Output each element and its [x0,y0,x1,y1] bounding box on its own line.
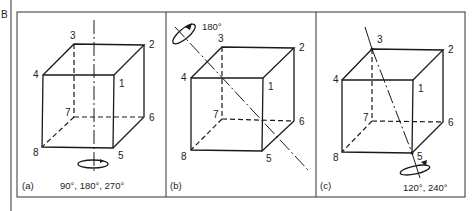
vertex-label-2: 2 [149,39,155,50]
vertex-label-6: 6 [149,112,155,123]
vertex-dot-5 [411,152,414,155]
rotation-angle-label: 120°, 240° [403,182,448,193]
figure-label: B [1,9,8,20]
panel-c: 3 2 4 1 7 6 8 5 (c) 120°, 240° [320,27,454,193]
hidden-edge-7-8 [42,117,74,147]
vertex-label-1: 1 [268,81,274,92]
top-face-edges [191,47,294,78]
rotation-axis-top [365,27,372,49]
front-face [191,78,263,151]
hidden-edge-7-6 [222,119,294,121]
vertex-label-8: 8 [181,151,187,162]
rotation-angle-label: 90°, 180°, 270° [60,180,124,191]
vertex-label-7: 7 [65,107,71,118]
vertex-label-1: 1 [418,83,424,94]
vertex-label-6: 6 [299,116,305,127]
figure-frame [17,12,465,197]
front-face [342,80,413,153]
top-face-edges [342,49,443,80]
vertex-label-1: 1 [119,78,125,89]
vertex-label-2: 2 [299,42,305,53]
vertex-dot-3 [371,48,374,51]
panel-caption: (b) [170,180,182,191]
vertex-label-4: 4 [181,72,187,83]
arrowhead-icon [185,23,192,30]
rotation-arrow-icon [170,21,198,47]
panel-caption: (c) [320,180,331,191]
hidden-edge-7-8 [342,121,372,152]
vertex-label-7: 7 [363,112,369,123]
panel-b: 180° 3 2 4 1 7 6 8 5 (b) [170,21,308,191]
vertex-label-5: 5 [417,151,423,162]
rotation-axis [372,49,412,153]
vertex-label-7: 7 [213,109,219,120]
arrowhead-icon [100,159,104,163]
panel-a: 3 2 4 1 7 6 8 5 (a) 90°, 180°, 270° [22,20,155,191]
vertex-label-5: 5 [118,150,124,161]
vertex-label-6: 6 [448,117,454,128]
hidden-edge-7-8 [191,119,222,150]
vertex-label-8: 8 [333,152,339,163]
front-face [42,75,114,148]
hidden-edge-7-6 [372,121,443,122]
vertex-label-4: 4 [33,69,39,80]
vertex-label-2: 2 [448,44,454,55]
rotation-angle-label: 180° [202,21,222,32]
vertex-label-8: 8 [33,147,39,158]
vertex-label-5: 5 [266,153,272,164]
vertex-label-4: 4 [333,74,339,85]
vertex-label-3: 3 [70,30,76,41]
cube-symmetry-figure: B 3 2 4 1 7 6 8 5 (a) 90°, 180°, 270° [0,0,476,211]
panel-caption: (a) [22,180,34,191]
vertex-label-3: 3 [218,33,224,44]
vertex-label-3: 3 [377,34,383,45]
